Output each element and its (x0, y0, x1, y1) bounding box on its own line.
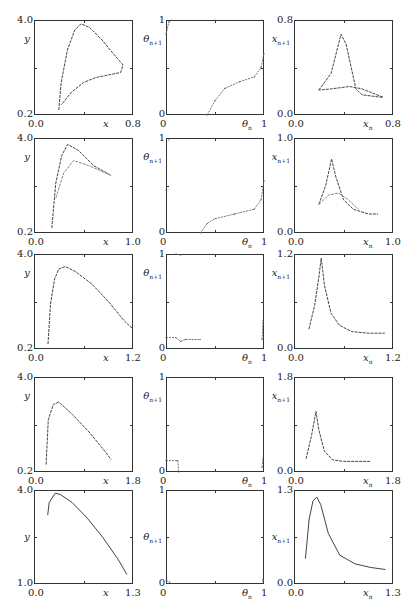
trajectory-curve (0, 0, 410, 611)
